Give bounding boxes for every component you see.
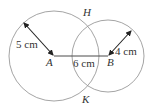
intersection-label-k: K [81,93,90,105]
two-circles-diagram: 5 cm 4 cm 6 cm A B H K [0,0,152,108]
intersection-label-h: H [82,6,92,18]
radius-label-a: 5 cm [16,38,38,50]
point-label-a: A [45,56,53,68]
segment-label-ab: 6 cm [73,57,95,69]
radius-label-b: 4 cm [115,45,137,57]
point-label-b: B [107,56,114,68]
